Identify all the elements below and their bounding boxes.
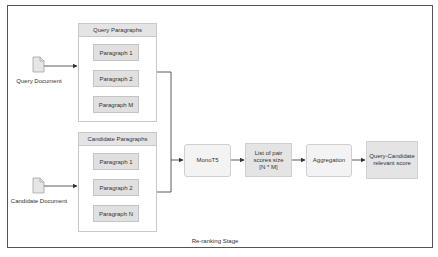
query-document-label: Query Document (6, 78, 72, 84)
re-ranking-stage-label: Re-ranking Stage (180, 238, 250, 244)
candidate-document-label: Candidate Document (0, 198, 78, 204)
connectors (0, 0, 438, 257)
pair-scores-line-3: [N * M] (259, 164, 277, 171)
relevant-score-line-2: relevant score (373, 160, 411, 167)
monot5-node: MonoT5 (184, 144, 231, 177)
query-paragraph-2: Paragraph 2 (93, 70, 139, 87)
candidate-paragraph-1: Paragraph 1 (93, 153, 139, 170)
pair-scores-line-2: scores size (253, 157, 283, 164)
query-paragraphs-title: Query Paragraphs (79, 24, 156, 37)
candidate-document-icon (33, 178, 44, 193)
relevant-score-node: Query-Candidate relevant score (366, 141, 418, 179)
candidate-paragraph-2: Paragraph 2 (93, 179, 139, 196)
pair-scores-list-node: List of pair scores size [N * M] (245, 143, 292, 177)
query-paragraph-m: Paragraph M (93, 96, 139, 113)
pair-scores-line-1: List of pair (255, 150, 283, 157)
relevant-score-line-1: Query-Candidate (369, 153, 415, 160)
aggregation-node: Aggregation (306, 144, 352, 177)
candidate-paragraph-n: Paragraph N (93, 205, 139, 222)
candidate-paragraphs-title: Candidate Paragraphs (79, 133, 156, 146)
query-document-icon (33, 57, 44, 72)
query-paragraph-1: Paragraph 1 (93, 44, 139, 61)
